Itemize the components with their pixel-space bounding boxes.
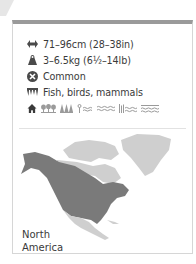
length-text: 71–96cm (28–38in) [43, 39, 134, 50]
length-row: 71–96cm (28–38in) [27, 36, 159, 52]
species-fact-card: 71–96cm (28–38in) 3–6.5kg (6½–14lb) Comm… [12, 20, 193, 254]
diet-text: Fish, birds, mammals [43, 87, 143, 98]
wetland-icon [77, 104, 93, 113]
facts-list: 71–96cm (28–38in) 3–6.5kg (6½–14lb) Comm… [27, 36, 159, 116]
weight-text: 3–6.5kg (6½–14lb) [43, 55, 131, 66]
conservation-status-icon [27, 71, 38, 82]
greenland-landmass [121, 134, 171, 176]
deciduous-forest-icon [41, 104, 56, 113]
status-row: Common [27, 68, 159, 84]
marsh-icon [119, 104, 137, 113]
length-arrows-icon [27, 39, 38, 50]
coniferous-forest-icon [60, 104, 73, 113]
diet-teeth-icon [27, 87, 38, 98]
river-icon [97, 104, 115, 113]
house-icon [27, 104, 37, 113]
arctic-islands [63, 140, 119, 162]
region-label-line1: North [22, 228, 63, 241]
lake-icon [141, 104, 159, 113]
region-label-line2: America [22, 241, 63, 254]
section-divider [19, 128, 186, 129]
diet-row: Fish, birds, mammals [27, 84, 159, 100]
status-text: Common [43, 71, 86, 82]
habitat-icons [27, 100, 159, 116]
weight-icon [27, 55, 38, 66]
page-corner-tab [0, 0, 14, 16]
weight-row: 3–6.5kg (6½–14lb) [27, 52, 159, 68]
region-label: North America [22, 228, 63, 254]
caribbean-islands [107, 220, 119, 224]
range-map [19, 132, 187, 242]
